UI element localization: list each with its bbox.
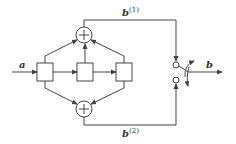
top-branch-superscript: (1) bbox=[129, 6, 139, 14]
b1-to-bottom-adder bbox=[45, 81, 77, 104]
output-label: b bbox=[206, 59, 213, 70]
b3-to-top-adder bbox=[91, 40, 124, 63]
block-2 bbox=[77, 63, 93, 81]
bottom-branch-superscript: (2) bbox=[129, 127, 139, 135]
switch-contact-top bbox=[173, 62, 179, 68]
input-label: a bbox=[19, 59, 25, 70]
b3-to-bottom-adder bbox=[91, 81, 124, 104]
bottom-branch-line bbox=[84, 84, 176, 125]
switch-rotate-up-icon bbox=[185, 61, 194, 77]
switch-rotate-down-icon bbox=[187, 67, 189, 86]
top-branch-label: b bbox=[122, 7, 129, 18]
top-branch-line bbox=[84, 20, 176, 61]
block-1 bbox=[37, 63, 53, 81]
b1-to-top-adder bbox=[45, 40, 77, 63]
block-3 bbox=[116, 63, 132, 81]
bottom-branch-label: b bbox=[122, 128, 129, 139]
block-diagram: a b b (1) b (2) bbox=[0, 0, 236, 144]
switch-contact-bottom bbox=[173, 77, 179, 83]
